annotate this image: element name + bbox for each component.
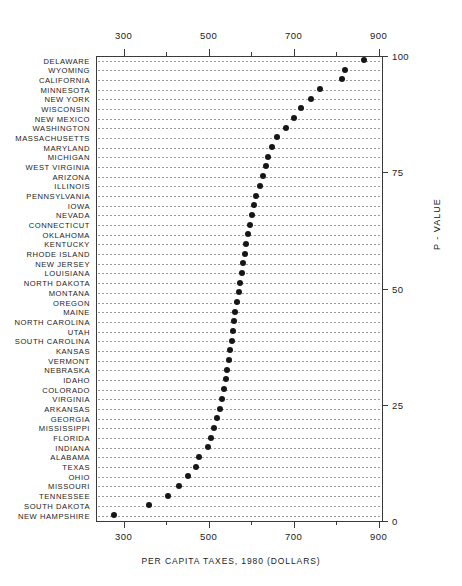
row-leader-dots [97,312,381,313]
data-point [111,512,117,518]
row-leader-dots [97,61,381,62]
state-label: RHODE ISLAND [0,250,90,259]
state-label: IDAHO [0,376,90,385]
chart-row: MASSACHUSETTS [0,134,462,143]
row-leader-dots [97,109,381,110]
state-label: LOUISIANA [0,269,90,278]
state-label: VIRGINIA [0,395,90,404]
state-label: MARYLAND [0,144,90,153]
state-label: MISSISSIPPI [0,424,90,433]
data-point [193,464,199,470]
row-leader-dots [97,477,381,478]
data-point [245,231,251,237]
chart-row: MINNESOTA [0,86,462,95]
state-label: NEW YORK [0,95,90,104]
state-label: ILLINOIS [0,182,90,191]
state-label: WISCONSIN [0,105,90,114]
row-leader-dots [97,428,381,429]
state-label: ARKANSAS [0,405,90,414]
chart-row: VIRGINIA [0,395,462,404]
row-leader-dots [97,516,381,517]
row-leader-dots [97,399,381,400]
state-label: INDIANA [0,444,90,453]
chart-row: ALABAMA [0,453,462,462]
state-label: OKLAHOMA [0,231,90,240]
chart-row: IOWA [0,202,462,211]
chart-row: NEBRASKA [0,366,462,375]
data-point [205,444,211,450]
chart-row: ILLINOIS [0,182,462,191]
state-label: NEW JERSEY [0,260,90,269]
chart-row: KENTUCKY [0,240,462,249]
chart-row: MISSISSIPPI [0,424,462,433]
data-point [229,338,235,344]
data-point [219,396,225,402]
data-point [211,425,217,431]
state-label: WEST VIRGINIA [0,163,90,172]
row-leader-dots [97,409,381,410]
data-point [217,406,223,412]
state-label: VERMONT [0,357,90,366]
row-leader-dots [97,244,381,245]
state-label: WYOMING [0,66,90,75]
data-point [221,386,227,392]
row-leader-dots [97,496,381,497]
chart-row: MAINE [0,308,462,317]
row-leader-dots [97,235,381,236]
data-point [185,473,191,479]
state-label: SOUTH CAROLINA [0,337,90,346]
data-point [223,376,229,382]
state-label: NEBRASKA [0,366,90,375]
data-point [251,202,257,208]
x-tick-major [294,521,295,528]
state-label: CONNECTICUT [0,221,90,230]
state-label: ARIZONA [0,173,90,182]
data-point [283,125,289,131]
row-leader-dots [97,264,381,265]
chart-row: ARKANSAS [0,405,462,414]
data-point [146,502,152,508]
data-point [208,435,214,441]
chart-row: PENNSYLVANIA [0,192,462,201]
chart-row: WEST VIRGINIA [0,163,462,172]
x-axis-title: PER CAPITA TAXES, 1980 (DOLLARS) [0,556,462,566]
chart-row: SOUTH DAKOTA [0,502,462,511]
data-point [236,289,242,295]
data-point [265,154,271,160]
x-tick-label: 700 [274,531,314,542]
row-leader-dots [97,119,381,120]
state-label: NORTH CAROLINA [0,318,90,327]
row-leader-dots [97,467,381,468]
x-tick-major [209,49,210,56]
chart-row: WASHINGTON [0,124,462,133]
x-tick-minor [251,52,252,56]
data-point [291,115,297,121]
state-label: TEXAS [0,463,90,472]
data-point [243,241,249,247]
row-leader-dots [97,70,381,71]
chart-row: UTAH [0,328,462,337]
chart-row: OREGON [0,299,462,308]
chart-row: NEW HAMPSHIRE [0,512,462,521]
x-tick-major [209,521,210,528]
chart-row: NORTH DAKOTA [0,279,462,288]
chart-row: NORTH CAROLINA [0,318,462,327]
chart-row: WYOMING [0,66,462,75]
row-leader-dots [97,332,381,333]
data-point [242,251,248,257]
data-point [234,299,240,305]
data-point [214,415,220,421]
x-tick-major [379,521,380,528]
chart-row: DELAWARE [0,57,462,66]
state-label: MAINE [0,308,90,317]
row-leader-dots [97,322,381,323]
x-tick-label: 300 [104,30,144,41]
data-point [361,57,367,63]
chart-row: MICHIGAN [0,153,462,162]
x-tick-minor [166,52,167,56]
data-point [269,144,275,150]
data-point [165,493,171,499]
state-label: OHIO [0,473,90,482]
chart-row: LOUISIANA [0,269,462,278]
state-label: TENNESSEE [0,492,90,501]
